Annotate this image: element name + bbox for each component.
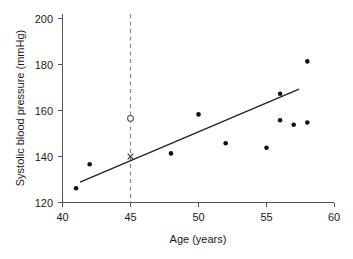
data-point <box>278 92 283 97</box>
y-axis-title: Systolic blood pressure (mmHg) <box>14 30 26 187</box>
data-points <box>74 59 310 191</box>
x-tick-label-60: 60 <box>328 211 340 223</box>
y-tick-label-160: 160 <box>35 105 53 117</box>
y-tick-marks <box>58 19 63 203</box>
data-point <box>291 123 296 128</box>
x-tick-label-55: 55 <box>260 211 272 223</box>
regression-line <box>80 89 299 182</box>
data-point <box>87 162 92 167</box>
y-tick-label-200: 200 <box>35 13 53 25</box>
x-tick-label-40: 40 <box>56 211 68 223</box>
axis-spines <box>63 14 335 203</box>
y-tick-label-180: 180 <box>35 59 53 71</box>
data-point <box>305 59 310 64</box>
x-tick-label-45: 45 <box>124 211 136 223</box>
data-point <box>305 120 310 125</box>
data-point <box>169 151 174 156</box>
x-tick-marks <box>63 203 335 208</box>
data-point <box>264 146 269 151</box>
x-axis-title: Age (years) <box>170 233 227 245</box>
x-tick-label-50: 50 <box>192 211 204 223</box>
observed-value-open-circle-marker <box>128 116 134 122</box>
data-point <box>278 118 283 123</box>
data-point <box>223 141 228 146</box>
plot-canvas: 200 180 160 140 120 40 45 50 55 60 Age (… <box>0 0 353 259</box>
y-tick-label-140: 140 <box>35 151 53 163</box>
data-point <box>196 112 201 117</box>
scatter-plot-figure: 200 180 160 140 120 40 45 50 55 60 Age (… <box>0 0 353 259</box>
data-point <box>74 186 79 191</box>
y-tick-label-120: 120 <box>35 197 53 209</box>
